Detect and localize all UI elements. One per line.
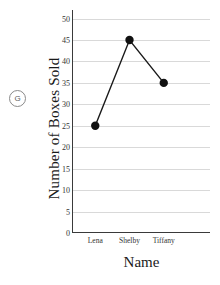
data-point-lena xyxy=(91,122,99,130)
line-series-boxes-sold xyxy=(73,10,210,233)
part-label-g: G xyxy=(9,90,26,107)
y-tick-label: 10 xyxy=(42,186,70,195)
data-point-tiffany xyxy=(160,79,168,87)
x-axis-tick-labels: LenaShelbyTiffany xyxy=(73,236,210,248)
y-tick-label: 0 xyxy=(42,229,70,238)
x-tick-label: Tiffany xyxy=(137,236,191,245)
y-tick-label: 35 xyxy=(42,78,70,87)
x-axis-title: Name xyxy=(73,254,210,271)
y-tick-label: 20 xyxy=(42,143,70,152)
y-tick-label: 50 xyxy=(42,14,70,23)
y-axis-tick-labels: 05101520253035404550 xyxy=(40,10,70,233)
series-line xyxy=(95,40,164,126)
y-tick-label: 45 xyxy=(42,36,70,45)
plot-area xyxy=(73,10,210,233)
data-point-shelby xyxy=(125,36,133,44)
y-tick-label: 15 xyxy=(42,164,70,173)
y-tick-label: 5 xyxy=(42,207,70,216)
y-tick-label: 40 xyxy=(42,57,70,66)
y-tick-label: 30 xyxy=(42,100,70,109)
y-tick-label: 25 xyxy=(42,121,70,130)
